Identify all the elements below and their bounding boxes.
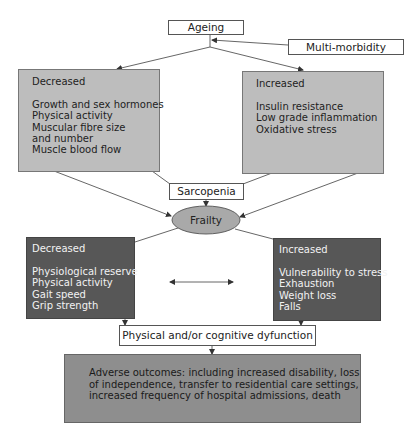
outcomes-line: of independence, transfer to residential… [89,379,360,391]
list-item: Low grade inflammation [256,112,383,123]
increased-upper-box: Increased Insulin resistance Low grade i… [242,71,384,174]
list-item: Physiological reserve [32,266,134,277]
ageing-box: Ageing [168,20,244,35]
frailty-label: Frailty [172,214,240,226]
dysfunction-label: Physical and/or cognitive dyfunction [122,330,313,341]
list-item: Vulnerability to stress [279,267,380,278]
list-item: Exhaustion [279,278,380,289]
increased-upper-heading: Increased [256,78,383,89]
multimorbidity-box: Multi-morbidity [288,39,404,55]
line-frailty-to-decreased-lower [135,228,178,242]
list-item: Muscle blood flow [32,144,159,155]
increased-lower-box: Increased Vulnerability to stress Exhaus… [273,238,381,321]
increased-lower-heading: Increased [279,244,380,255]
list-item: Gait speed [32,289,134,300]
line-frailty-to-increased-lower [235,229,273,239]
arrow-decreased-to-frailty [54,171,171,216]
list-item: Insulin resistance [256,101,383,112]
outcomes-box: Adverse outcomes: including increased di… [64,354,361,423]
arrow-multimorbidity-to-ageing [212,40,288,45]
sarcopenia-label: Sarcopenia [177,186,236,197]
list-item: Growth and sex hormones [32,99,159,110]
list-item: Falls [279,301,380,312]
dysfunction-box: Physical and/or cognitive dyfunction [119,325,316,346]
decreased-upper-box: Decreased Growth and sex hormones Physic… [18,69,160,172]
decreased-lower-box: Decreased Physiological reserve Physical… [26,237,135,319]
outcomes-line: increased frequency of hospital admissio… [89,390,360,402]
decreased-upper-heading: Decreased [32,76,159,87]
line-decreased-to-sarcopenia [152,171,170,184]
ageing-label: Ageing [188,22,225,33]
list-item: Oxidative stress [256,124,383,135]
list-item: Muscular fibre size [32,122,159,133]
list-item: Physical activity [32,110,159,121]
arrow-increased-to-frailty [240,173,358,217]
line-increased-to-sarcopenia [243,173,272,184]
list-item: and number [32,133,159,144]
arrow-ageing-to-decreased [117,47,210,69]
outcomes-line: Adverse outcomes: including increased di… [89,367,360,379]
list-item: Grip strength [32,300,134,311]
list-item: Weight loss [279,290,380,301]
list-item: Physical activity [32,277,134,288]
multimorbidity-label: Multi-morbidity [306,42,386,53]
decreased-lower-heading: Decreased [32,243,134,254]
sarcopenia-box: Sarcopenia [169,183,244,200]
